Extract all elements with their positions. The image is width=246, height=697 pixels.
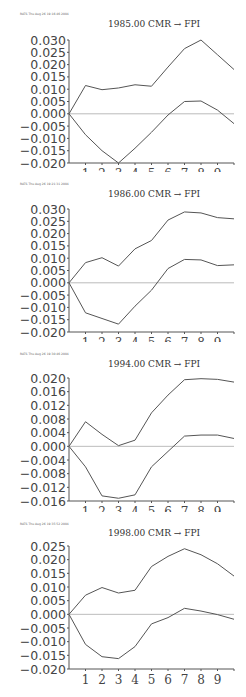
series-line bbox=[69, 259, 234, 324]
series-line bbox=[69, 549, 234, 615]
x-tick-label: 8 bbox=[197, 505, 205, 512]
x-tick-label: 6 bbox=[164, 505, 172, 512]
y-tick-label: −0.020 bbox=[20, 156, 66, 171]
x-tick-label: 5 bbox=[148, 673, 156, 687]
line-chart: 0.0250.0200.0150.0100.0050.000−0.005−0.0… bbox=[0, 515, 246, 697]
irf-panel-4: RATS Thu Aug 26 19:35:52 20041998.00 CMR… bbox=[0, 515, 246, 697]
x-tick-label: 6 bbox=[164, 673, 172, 687]
x-tick-label: 1 bbox=[82, 673, 90, 687]
series-line bbox=[69, 435, 234, 498]
line-chart: 0.0200.0160.0120.0080.0040.000−0.004−0.0… bbox=[0, 340, 246, 512]
series-line bbox=[69, 212, 234, 283]
series-line bbox=[69, 40, 234, 114]
series-line bbox=[69, 379, 234, 447]
line-chart: 0.0300.0250.0200.0150.0100.0050.000−0.00… bbox=[0, 0, 246, 172]
x-tick-label: 7 bbox=[181, 505, 189, 512]
x-tick-label: 9 bbox=[214, 673, 222, 687]
series-line bbox=[69, 101, 234, 163]
x-tick-label: 2 bbox=[98, 505, 106, 512]
irf-panel-1: RATS Thu Aug 26 19:16:46 20041985.00 CMR… bbox=[0, 0, 246, 172]
x-tick-label: 1 bbox=[82, 505, 90, 512]
y-tick-label: −0.020 bbox=[20, 662, 66, 677]
line-chart: 0.0300.0250.0200.0150.0100.0050.000−0.00… bbox=[0, 170, 246, 342]
irf-panel-2: RATS Thu Aug 26 19:21:31 20041986.00 CMR… bbox=[0, 170, 246, 342]
x-tick-label: 3 bbox=[115, 673, 123, 687]
x-tick-label: 2 bbox=[98, 673, 106, 687]
x-tick-label: 3 bbox=[115, 505, 123, 512]
x-tick-label: 4 bbox=[131, 505, 139, 512]
x-tick-label: 4 bbox=[131, 673, 139, 687]
x-tick-label: 5 bbox=[148, 505, 156, 512]
x-tick-label: 9 bbox=[214, 505, 222, 512]
series-line bbox=[69, 608, 234, 658]
x-tick-label: 7 bbox=[181, 673, 189, 687]
y-tick-label: −0.016 bbox=[20, 494, 66, 509]
x-tick-label: 8 bbox=[197, 673, 205, 687]
irf-panel-3: RATS Thu Aug 26 19:30:46 20041994.00 CMR… bbox=[0, 340, 246, 512]
y-tick-label: −0.020 bbox=[20, 325, 66, 340]
